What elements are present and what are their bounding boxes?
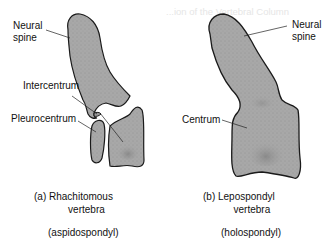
rhachitomous-pleurocentrum xyxy=(91,120,105,162)
subcaption-b: (holospondyl) xyxy=(221,226,281,239)
caption-b: (b) Lepospondyl vertebra xyxy=(203,190,275,216)
label-text: Neural xyxy=(292,19,321,31)
label-neural-spine-b: Neural spine xyxy=(292,19,321,43)
caption-a-title: (a) Rhachitomous xyxy=(34,190,113,203)
caption-a: (a) Rhachitomous vertebra xyxy=(34,190,113,216)
label-text: Neural xyxy=(13,20,42,32)
caption-a-subtitle: vertebra xyxy=(34,203,113,216)
subcaption-a: (aspidospondyl) xyxy=(48,226,119,239)
label-text: spine xyxy=(13,32,42,44)
label-text: spine xyxy=(292,31,321,43)
label-neural-spine-a: Neural spine xyxy=(13,20,42,44)
caption-b-title: (b) Lepospondyl xyxy=(203,190,275,203)
caption-b-subtitle: vertebra xyxy=(203,203,275,216)
label-intercentrum: Intercentrum xyxy=(23,80,79,92)
leader-neural-spine-a xyxy=(46,30,70,38)
leader-neural-spine-b xyxy=(244,26,287,36)
label-pleurocentrum: Pleurocentrum xyxy=(11,113,76,125)
rhachitomous-centrum xyxy=(109,107,145,167)
label-centrum-b: Centrum xyxy=(182,114,220,126)
lepospondyl-vertebra xyxy=(209,14,301,178)
rhachitomous-neural-arch xyxy=(68,14,130,118)
